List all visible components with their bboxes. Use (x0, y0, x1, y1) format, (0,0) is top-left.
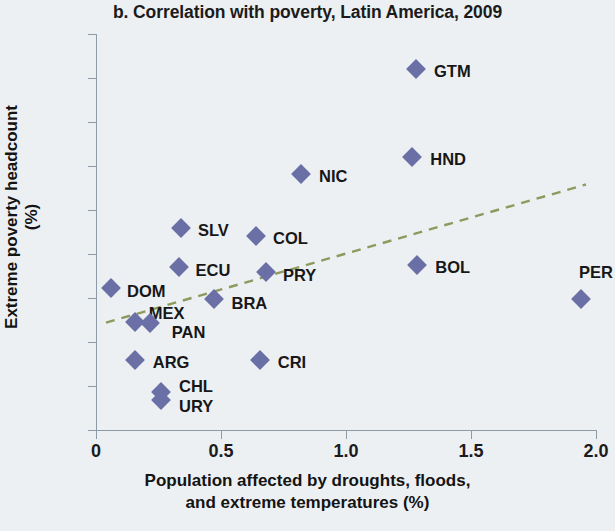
scatter-point-label: COL (273, 229, 308, 248)
scatter-point[interactable] (125, 350, 145, 370)
x-tick-label: 0 (56, 441, 136, 462)
y-tick-mark (88, 34, 96, 35)
trendline-segment (106, 184, 586, 322)
scatter-point-label: ECU (196, 261, 231, 280)
y-tick-mark (88, 342, 96, 343)
x-tick-mark (346, 430, 347, 439)
scatter-point-label: DOM (127, 282, 166, 301)
scatter-point[interactable] (291, 164, 311, 184)
scatter-point[interactable] (256, 263, 276, 283)
x-tick-label: 1.5 (431, 441, 511, 462)
y-tick-mark (88, 166, 96, 167)
scatter-point[interactable] (169, 257, 189, 277)
scatter-point[interactable] (204, 289, 224, 309)
scatter-point[interactable] (250, 350, 270, 370)
scatter-point[interactable] (407, 255, 427, 275)
x-tick-mark (471, 430, 472, 439)
y-tick-mark (88, 78, 96, 79)
scatter-point[interactable] (246, 226, 266, 246)
scatter-point[interactable] (571, 289, 591, 309)
x-tick-label: 1.0 (306, 441, 386, 462)
x-axis-title: Population affected by droughts, floods,… (0, 470, 615, 515)
x-axis-title-line-1: Population affected by droughts, floods, (0, 470, 615, 492)
x-tick-mark (96, 430, 97, 439)
y-axis-title: Extreme poverty headcount (%) (2, 102, 42, 332)
y-tick-mark (88, 254, 96, 255)
scatter-point-label: CHL (179, 377, 213, 396)
scatter-point-label: NIC (319, 167, 347, 186)
scatter-point-label: ARG (153, 353, 190, 372)
y-tick-mark (88, 298, 96, 299)
scatter-point[interactable] (171, 218, 191, 238)
scatter-point-label: CRI (278, 353, 306, 372)
scatter-point-label: BRA (232, 294, 268, 313)
scatter-point-label: PAN (172, 323, 206, 342)
scatter-point-label: GTM (434, 62, 471, 81)
scatter-point-label: PER (579, 263, 613, 282)
y-tick-mark (88, 430, 96, 431)
chart-title: b. Correlation with poverty, Latin Ameri… (0, 2, 615, 23)
chart-figure: b. Correlation with poverty, Latin Ameri… (0, 0, 615, 531)
x-tick-mark (221, 430, 222, 439)
y-tick-mark (88, 122, 96, 123)
scatter-point-label: PRY (283, 266, 316, 285)
x-tick-mark (596, 430, 597, 439)
scatter-point[interactable] (101, 278, 121, 298)
scatter-point-label: SLV (198, 221, 229, 240)
x-axis-title-line-2: and extreme temperatures (%) (0, 492, 615, 514)
y-tick-mark (88, 386, 96, 387)
y-tick-mark (88, 210, 96, 211)
x-tick-label: 0.5 (181, 441, 261, 462)
scatter-point[interactable] (402, 147, 422, 167)
scatter-point[interactable] (406, 59, 426, 79)
x-tick-label: 2.0 (556, 441, 615, 462)
y-axis-line (96, 34, 97, 430)
scatter-point-label: HND (430, 150, 466, 169)
scatter-point-label: URY (179, 397, 213, 416)
scatter-point-label: BOL (435, 258, 470, 277)
